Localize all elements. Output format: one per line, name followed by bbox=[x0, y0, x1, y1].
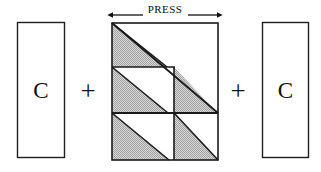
plus-operator-right: + bbox=[226, 78, 250, 105]
left-block-label: C bbox=[17, 79, 65, 102]
press-panel bbox=[112, 23, 218, 160]
press-diagram-figure: PRESS C + + C bbox=[0, 0, 321, 172]
right-block-label: C bbox=[262, 79, 309, 102]
plus-operator-left: + bbox=[76, 78, 100, 105]
press-label: PRESS bbox=[137, 3, 193, 15]
